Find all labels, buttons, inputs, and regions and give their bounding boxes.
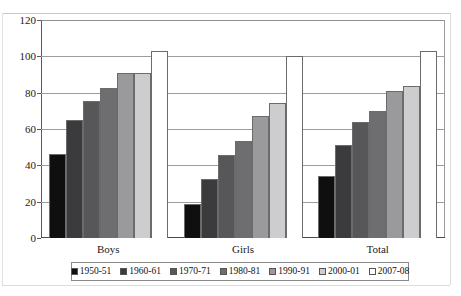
legend-label: 1950-51: [80, 267, 112, 277]
bar-girls-2007-08: [286, 56, 303, 238]
legend-label: 1960-61: [129, 267, 161, 277]
chart-left-rule: [2, 13, 3, 285]
legend-swatch-icon: [369, 268, 376, 275]
bar-boys-1950-51: [49, 154, 66, 238]
bar-girls-1950-51: [184, 204, 201, 238]
legend-swatch-icon: [170, 268, 177, 275]
chart-top-rule: [2, 13, 450, 14]
bar-boys-2000-01: [134, 73, 151, 238]
legend-swatch-icon: [319, 268, 326, 275]
bar-girls-1960-61: [201, 179, 218, 238]
bar-chart: 020406080100120 BoysGirlsTotal 1950-5119…: [0, 0, 461, 296]
y-tick-label-80: 80: [25, 87, 36, 98]
chart-bottom-rule: [2, 285, 450, 286]
bar-girls-1980-81: [235, 141, 252, 238]
legend-item-1970-71[interactable]: 1970-71: [170, 267, 211, 277]
chart-legend: 1950-511960-611970-711980-811990-912000-…: [71, 262, 409, 281]
x-label-total: Total: [310, 241, 445, 259]
bar-boys-1990-91: [117, 73, 134, 238]
bar-boys-1960-61: [66, 120, 83, 238]
y-tick-label-0: 0: [31, 233, 37, 244]
legend-swatch-icon: [120, 268, 127, 275]
legend-item-1960-61[interactable]: 1960-61: [120, 267, 161, 277]
bar-total-2000-01: [403, 86, 420, 238]
x-label-boys: Boys: [41, 241, 176, 259]
plot-area: 020406080100120: [41, 20, 445, 238]
legend-item-2000-01[interactable]: 2000-01: [319, 267, 360, 277]
bar-boys-1980-81: [100, 88, 117, 238]
y-tick-label-20: 20: [25, 196, 36, 207]
x-axis-labels: BoysGirlsTotal: [41, 241, 445, 259]
legend-label: 1980-81: [229, 267, 261, 277]
bar-group-total: [310, 20, 445, 238]
legend-label: 1990-91: [278, 267, 310, 277]
y-tick-label-40: 40: [25, 160, 36, 171]
legend-item-1990-91[interactable]: 1990-91: [269, 267, 310, 277]
y-tick-label-60: 60: [25, 124, 36, 135]
bar-boys-1970-71: [83, 101, 100, 238]
bar-groups: [41, 20, 445, 238]
chart-right-rule: [450, 13, 451, 285]
bar-total-1950-51: [318, 176, 335, 238]
legend-swatch-icon: [220, 268, 227, 275]
bar-girls-1990-91: [252, 116, 269, 238]
bar-girls-1970-71: [218, 155, 235, 238]
y-tick-label-120: 120: [20, 15, 37, 26]
legend-swatch-icon: [71, 268, 78, 275]
bar-total-1960-61: [335, 145, 352, 238]
x-label-girls: Girls: [176, 241, 311, 259]
bar-group-girls: [176, 20, 311, 238]
legend-item-2007-08[interactable]: 2007-08: [369, 267, 410, 277]
legend-label: 2007-08: [378, 267, 410, 277]
bar-total-1980-81: [369, 111, 386, 238]
legend-swatch-icon: [269, 268, 276, 275]
bar-total-1970-71: [352, 122, 369, 238]
bar-total-1990-91: [386, 91, 403, 238]
y-tick-label-100: 100: [20, 51, 37, 62]
y-tick-mark-0: [37, 238, 41, 239]
bar-boys-2007-08: [151, 51, 168, 238]
legend-item-1980-81[interactable]: 1980-81: [220, 267, 261, 277]
bar-total-2007-08: [420, 51, 437, 238]
legend-label: 2000-01: [328, 267, 360, 277]
legend-item-1950-51[interactable]: 1950-51: [71, 267, 112, 277]
bar-group-boys: [41, 20, 176, 238]
bar-girls-2000-01: [269, 103, 286, 238]
legend-label: 1970-71: [179, 267, 211, 277]
